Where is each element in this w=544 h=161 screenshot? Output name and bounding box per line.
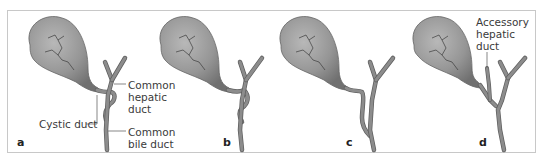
panel-letter-d: d xyxy=(479,136,487,149)
accessory-hepatic-duct-label-line1: Accessory xyxy=(476,16,529,28)
panel-c-drawing xyxy=(280,17,393,150)
panel-letter-a: a xyxy=(17,136,24,149)
common-bile-duct-label-line2: bile duct xyxy=(128,138,174,150)
gallbladder-variants-illustration xyxy=(0,0,544,161)
panel-letter-b: b xyxy=(223,136,231,149)
accessory-hepatic-duct-label-line2: hepatic xyxy=(476,28,515,40)
common-hepatic-duct-label-line2: hepatic xyxy=(128,91,167,103)
panel-letter-c: c xyxy=(346,136,353,149)
common-bile-duct-label-line1: Common xyxy=(128,126,175,138)
accessory-hepatic-duct-label-line3: duct xyxy=(476,40,499,52)
common-hepatic-duct-label-line1: Common xyxy=(128,79,175,91)
common-hepatic-duct-label-line3: duct xyxy=(128,103,151,115)
cystic-duct-label: Cystic duct xyxy=(39,118,97,130)
